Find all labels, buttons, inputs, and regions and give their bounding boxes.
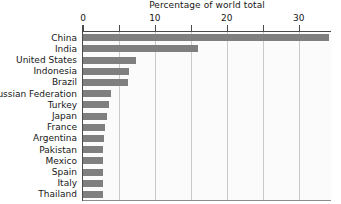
x-axis-tick-label: 0: [80, 13, 86, 24]
plot-area: [83, 32, 331, 200]
bar: [83, 124, 105, 131]
bar: [83, 79, 128, 86]
category-label: United States: [16, 55, 77, 65]
category-label: France: [47, 122, 77, 132]
bar: [83, 146, 103, 153]
category-label: Pakistan: [39, 145, 77, 155]
category-label: Turkey: [48, 100, 77, 110]
category-label: India: [55, 44, 77, 54]
plot-bottom-border: [83, 200, 331, 201]
bar: [83, 135, 104, 142]
bar: [83, 113, 107, 120]
x-axis-tick-label: 20: [221, 13, 232, 24]
bars-layer: [83, 32, 331, 200]
category-label: Argentina: [33, 133, 77, 143]
bar: [83, 191, 103, 198]
category-label: Italy: [57, 178, 77, 188]
bar: [83, 157, 103, 164]
category-label: Mexico: [46, 156, 77, 166]
y-axis-category-labels: ChinaIndiaUnited StatesIndonesiaBrazilRu…: [0, 32, 80, 200]
bar: [83, 101, 109, 108]
bar: [83, 34, 329, 41]
bar: [83, 45, 198, 52]
category-label: Russian Federation: [0, 89, 77, 99]
bar: [83, 57, 136, 64]
category-label: China: [51, 33, 77, 43]
category-label: Japan: [52, 111, 77, 121]
bar: [83, 180, 103, 187]
category-label: Indonesia: [33, 66, 77, 76]
bar-chart: Percentage of world total 0102030 ChinaI…: [0, 0, 341, 204]
bar: [83, 169, 103, 176]
category-label: Spain: [52, 167, 77, 177]
x-axis-tick-labels: 0102030: [0, 13, 341, 25]
category-label: Brazil: [52, 77, 77, 87]
chart-title: Percentage of world total: [83, 0, 331, 11]
bar: [83, 68, 129, 75]
x-axis-tick-label: 10: [149, 13, 160, 24]
bar: [83, 90, 111, 97]
x-axis-tick-label: 30: [293, 13, 304, 24]
category-label: Thailand: [38, 189, 77, 199]
